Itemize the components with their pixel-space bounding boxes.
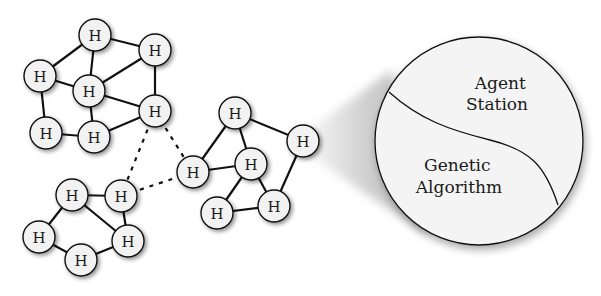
nodes: HHHHHHHHHHHHHHHHHH	[23, 19, 319, 276]
node-label: H	[32, 229, 45, 247]
host-node: H	[112, 225, 144, 257]
host-node: H	[24, 60, 56, 92]
network-diagram: HHHHHHHHHHHHHHHHHH Agent Station Genetic…	[0, 0, 601, 296]
host-node: H	[201, 197, 233, 229]
node-label: H	[65, 187, 78, 205]
node-label: H	[114, 188, 127, 206]
node-label: H	[148, 42, 161, 60]
node-label: H	[244, 156, 257, 174]
host-node: H	[139, 34, 171, 66]
agent-label: Agent	[474, 73, 526, 93]
node-label: H	[186, 164, 199, 182]
host-node: H	[79, 19, 111, 51]
host-node: H	[73, 75, 105, 107]
genetic-label: Genetic	[424, 155, 490, 175]
node-label: H	[74, 252, 87, 270]
node-label: H	[296, 133, 309, 151]
node-label: H	[210, 205, 223, 223]
node-label: H	[121, 233, 134, 251]
node-label: H	[87, 129, 100, 147]
zoom-circle-outline	[375, 37, 583, 245]
node-label: H	[88, 27, 101, 45]
host-node: H	[139, 95, 171, 127]
node-label: H	[39, 125, 52, 143]
host-node: H	[30, 117, 62, 149]
host-node: H	[258, 190, 290, 222]
node-label: H	[228, 105, 241, 123]
zoom-circle: Agent Station Genetic Algorithm	[375, 37, 583, 245]
station-label: Station	[466, 94, 528, 114]
region-label-agent-station: Agent Station	[466, 73, 531, 114]
node-label: H	[33, 68, 46, 86]
host-node: H	[219, 97, 251, 129]
edges	[39, 35, 303, 260]
host-node: H	[23, 221, 55, 253]
host-node: H	[177, 156, 209, 188]
node-label: H	[267, 198, 280, 216]
node-label: H	[148, 103, 161, 121]
algorithm-label: Algorithm	[415, 177, 502, 197]
cluster-top-left: HHHHHHH	[24, 19, 171, 153]
cluster-bottom-left: HHHHH	[23, 179, 144, 276]
host-node: H	[56, 179, 88, 211]
host-node: H	[235, 148, 267, 180]
host-node: H	[287, 125, 319, 157]
host-node: H	[65, 244, 97, 276]
node-label: H	[82, 83, 95, 101]
host-node: H	[105, 180, 137, 212]
host-node: H	[78, 121, 110, 153]
